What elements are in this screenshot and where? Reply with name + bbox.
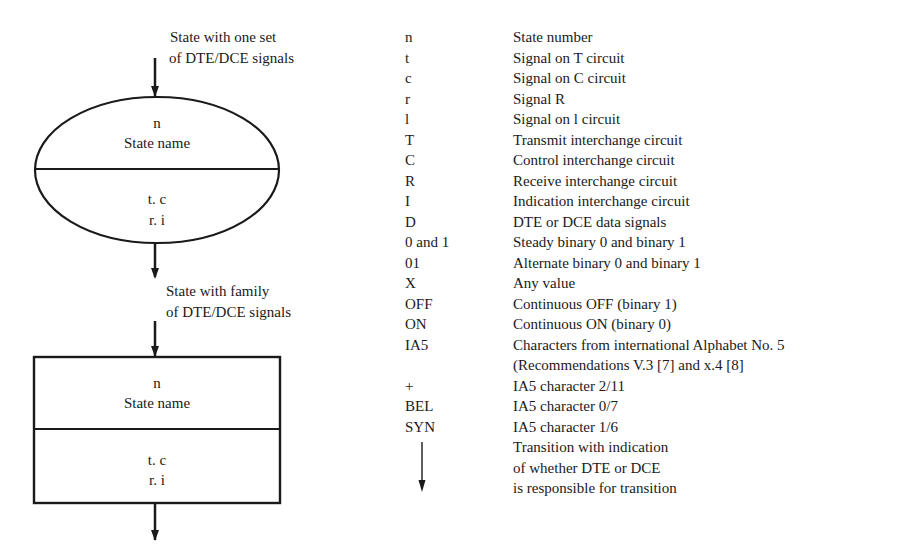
legend-symbol: l xyxy=(405,109,409,129)
legend-description: Any value xyxy=(513,273,575,293)
ellipse-caption-line1: State with one set xyxy=(170,28,276,46)
legend-description: Steady binary 0 and binary 1 xyxy=(513,232,686,252)
rect-signals-ri: r. i xyxy=(97,471,217,489)
rect-state-name: State name xyxy=(97,394,217,412)
legend-description: State number xyxy=(513,27,593,47)
legend-description: IA5 character 1/6 xyxy=(513,417,618,437)
legend-description: Receive interchange circuit xyxy=(513,171,677,191)
legend-description: Continuous ON (binary 0) xyxy=(513,314,671,334)
rect-signals-tc: t. c xyxy=(97,451,217,469)
legend-description: DTE or DCE data signals xyxy=(513,212,666,232)
legend-description: Indication interchange circuit xyxy=(513,191,690,211)
legend-description: Transition with indication xyxy=(513,437,668,457)
legend-symbol: ON xyxy=(405,314,427,334)
legend-description: Signal on C circuit xyxy=(513,68,626,88)
legend-symbol: R xyxy=(405,171,415,191)
arrow-out-of-ellipse-icon xyxy=(151,243,159,279)
legend-symbol: c xyxy=(405,68,412,88)
legend-description: Control interchange circuit xyxy=(513,150,675,170)
ellipse-caption-line2: of DTE/DCE signals xyxy=(169,49,294,67)
legend-symbol: 01 xyxy=(405,253,420,273)
legend-description: IA5 character 2/11 xyxy=(513,376,625,396)
ellipse-state-name: State name xyxy=(97,134,217,152)
rect-state-number: n xyxy=(97,374,217,392)
legend-symbol: T xyxy=(405,130,414,150)
legend-symbol: I xyxy=(405,191,410,211)
legend-symbol: C xyxy=(405,150,415,170)
legend-description: (Recommendations V.3 [7] and x.4 [8] xyxy=(513,355,744,375)
legend-description: Signal on l circuit xyxy=(513,109,620,129)
rect-caption-line1: State with family xyxy=(166,282,269,300)
legend-symbol: D xyxy=(405,212,416,232)
legend-description: Signal on T circuit xyxy=(513,48,625,68)
arrow-into-rect-icon xyxy=(151,321,159,357)
legend-description: IA5 character 0/7 xyxy=(513,396,618,416)
arrow-into-ellipse-icon xyxy=(151,58,159,97)
legend-symbol: OFF xyxy=(405,294,433,314)
legend-symbol: SYN xyxy=(405,417,435,437)
transition-arrow-icon xyxy=(419,442,426,492)
rect-caption-line2: of DTE/DCE signals xyxy=(166,303,291,321)
legend-description: is responsible for transition xyxy=(513,478,677,498)
arrow-out-of-rect-icon xyxy=(151,503,159,541)
legend-description: Transmit interchange circuit xyxy=(513,130,682,150)
ellipse-signals-ri: r. i xyxy=(97,211,217,229)
legend-symbol: 0 and 1 xyxy=(405,232,449,252)
legend-description: Signal R xyxy=(513,89,565,109)
legend-symbol: BEL xyxy=(405,396,433,416)
ellipse-state-number: n xyxy=(97,114,217,132)
legend-symbol: X xyxy=(405,273,416,293)
legend-description: Characters from international Alphabet N… xyxy=(513,335,785,355)
legend-symbol: r xyxy=(405,89,410,109)
legend-symbol: + xyxy=(405,376,413,396)
legend-description: Alternate binary 0 and binary 1 xyxy=(513,253,701,273)
legend-description: Continuous OFF (binary 1) xyxy=(513,294,677,314)
legend-symbol: t xyxy=(405,48,409,68)
ellipse-signals-tc: t. c xyxy=(97,190,217,208)
legend-symbol: n xyxy=(405,27,413,47)
legend-description: of whether DTE or DCE xyxy=(513,458,660,478)
legend-symbol: IA5 xyxy=(405,335,428,355)
